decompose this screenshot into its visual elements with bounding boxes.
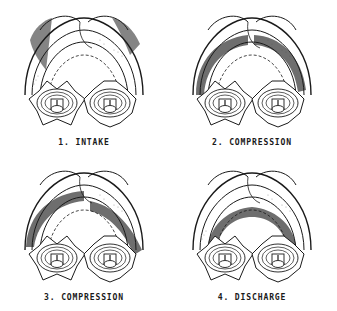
stage-3-compression-panel: 3. COMPRESSION <box>0 155 168 310</box>
compression-2-rotor-illustration <box>0 155 168 290</box>
stage-label: 3. COMPRESSION <box>13 291 156 302</box>
stage-label: 2. COMPRESSION <box>181 136 324 147</box>
stage-1-intake-panel: 1. INTAKE <box>0 0 168 155</box>
stage-2-compression-panel: 2. COMPRESSION <box>168 0 336 155</box>
stage-label: 4. DISCHARGE <box>181 291 324 302</box>
stage-label: 1. INTAKE <box>13 136 156 147</box>
stage-4-discharge-panel: 4. DISCHARGE <box>168 155 336 310</box>
intake-rotor-illustration <box>0 0 168 135</box>
compression-1-rotor-illustration <box>168 0 336 135</box>
discharge-rotor-illustration <box>168 155 336 290</box>
